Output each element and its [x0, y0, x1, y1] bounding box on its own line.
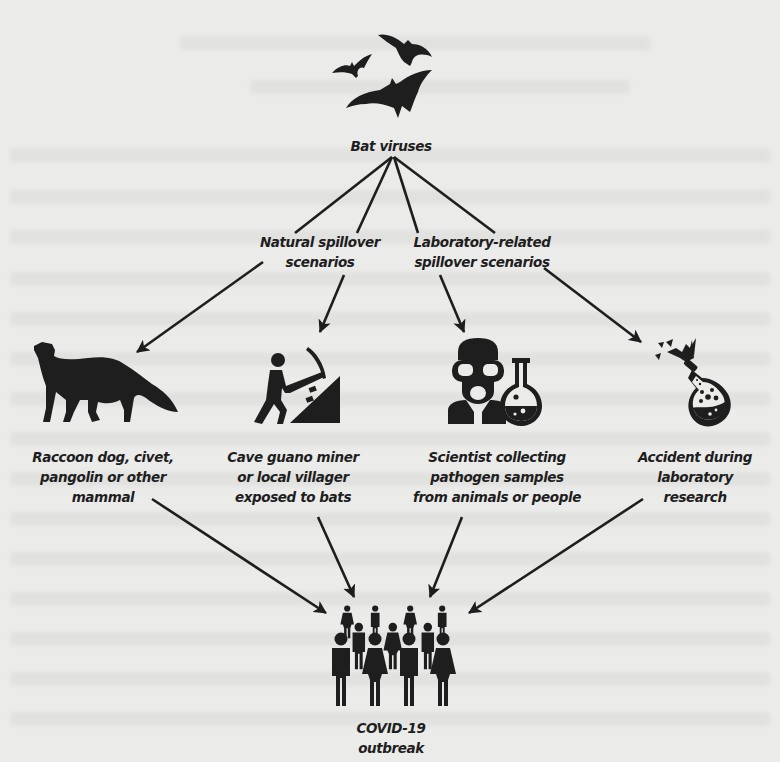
label-line: pangolin or other	[18, 467, 188, 487]
branch-label-natural: Natural spillover scenarios	[240, 232, 400, 272]
scenario-label-accident: Accident during laboratory research	[620, 447, 770, 507]
label-line: Accident during	[620, 447, 770, 467]
source-label-bat-viruses: Bat viruses	[341, 136, 441, 156]
label-line: scenarios	[240, 252, 400, 272]
scenario-label-miner: Cave guano miner or local villager expos…	[208, 447, 378, 507]
branch-arrows	[137, 262, 641, 352]
outcome-arrows	[152, 499, 643, 613]
label-line: Cave guano miner	[208, 447, 378, 467]
crowd-icon	[332, 605, 456, 706]
miner-pickaxe-icon	[254, 347, 340, 424]
scenario-label-scientist: Scientist collecting pathogen samples fr…	[402, 447, 592, 507]
diagram-canvas	[0, 0, 780, 762]
label-line: research	[620, 487, 770, 507]
label-line: Raccoon dog, civet,	[18, 447, 188, 467]
scenario-label-animal: Raccoon dog, civet, pangolin or other ma…	[18, 447, 188, 507]
label-line: pathogen samples	[402, 467, 592, 487]
label-line: COVID-19	[331, 718, 451, 738]
outcome-label-covid: COVID-19 outbreak	[331, 718, 451, 758]
broken-flask-icon	[655, 338, 731, 426]
scientist-flask-icon	[448, 338, 542, 426]
label-line: Natural spillover	[240, 232, 400, 252]
branch-label-laboratory: Laboratory-related spillover scenarios	[402, 232, 562, 272]
label-line: from animals or people	[402, 487, 592, 507]
label-line: spillover scenarios	[402, 252, 562, 272]
label-line: outbreak	[331, 738, 451, 758]
bats-icon	[332, 34, 432, 118]
label-line: Bat viruses	[341, 136, 441, 156]
label-line: exposed to bats	[208, 487, 378, 507]
label-line: or local villager	[208, 467, 378, 487]
fox-mammal-icon	[34, 342, 178, 422]
label-line: laboratory	[620, 467, 770, 487]
label-line: Laboratory-related	[402, 232, 562, 252]
label-line: Scientist collecting	[402, 447, 592, 467]
source-edges	[295, 157, 495, 233]
label-line: mammal	[18, 487, 188, 507]
